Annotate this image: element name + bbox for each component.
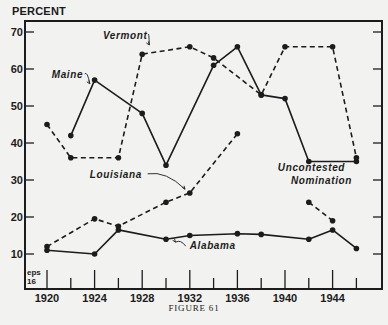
data-point [44, 248, 50, 254]
data-point [68, 155, 74, 161]
series-vermont [44, 44, 359, 161]
data-point [354, 246, 360, 252]
y-tick-label: 50 [11, 100, 23, 112]
arrow-icon [148, 173, 185, 189]
line-chart: 1020304050607019201924192819321936194019… [0, 0, 388, 325]
data-point [139, 51, 145, 57]
annotation-label: Louisiana [90, 169, 142, 180]
data-point [116, 227, 122, 233]
data-point [187, 233, 193, 239]
data-point [187, 44, 193, 50]
y-tick-label: 70 [11, 26, 23, 38]
annotation-label: Uncontested [278, 162, 345, 173]
data-point [306, 236, 312, 242]
data-point [235, 131, 241, 137]
y-tick-label: 10 [11, 248, 23, 260]
y-tick-label: 30 [11, 174, 23, 186]
data-point [139, 111, 145, 117]
y-tick-label: 20 [11, 211, 23, 223]
data-point [163, 162, 169, 168]
series-line [47, 134, 237, 247]
series-maine [68, 44, 359, 168]
annotation-label: Nomination [291, 175, 352, 186]
data-point [258, 92, 264, 98]
figure-caption: FIGURE 61 [0, 303, 388, 313]
data-point [163, 236, 169, 242]
data-point [211, 63, 217, 69]
y-tick-label: 40 [11, 137, 23, 149]
data-point [282, 44, 288, 50]
data-point [163, 199, 169, 205]
series-line [309, 202, 333, 221]
data-point [330, 227, 336, 233]
y-tick-label: 60 [11, 63, 23, 75]
chart-series [44, 44, 359, 257]
data-point [330, 44, 336, 50]
data-point [68, 133, 74, 139]
annotation-label: Alabama [189, 240, 236, 251]
data-point [116, 155, 122, 161]
data-point [235, 44, 241, 50]
series-louisiana [44, 131, 335, 249]
arrowhead-icon [146, 41, 149, 45]
data-point [92, 251, 98, 257]
data-point [44, 122, 50, 128]
data-point [330, 218, 336, 224]
data-point [282, 96, 288, 102]
data-point [354, 155, 360, 161]
data-point [187, 190, 193, 196]
arrow-icon [176, 241, 186, 246]
data-point [258, 232, 264, 238]
annotation-label: Vermont [103, 30, 147, 41]
data-point [235, 231, 241, 237]
data-point [92, 77, 98, 83]
series-line [47, 47, 356, 158]
arrowhead-icon [173, 239, 176, 243]
arrowhead-icon [87, 80, 90, 84]
data-point [92, 216, 98, 222]
data-point [306, 199, 312, 205]
annotation-label: Maine [52, 69, 83, 80]
data-point [211, 55, 217, 61]
